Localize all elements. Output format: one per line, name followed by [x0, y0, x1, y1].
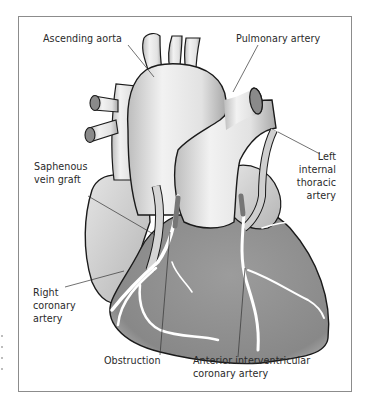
label-right-coronary-artery: Right coronary artery [33, 286, 76, 325]
obstruction-rca [175, 198, 178, 226]
label-obstruction: Obstruction [104, 354, 161, 367]
label-left-internal-thoracic-artery: Left internal thoracic artery [286, 150, 336, 202]
label-ascending-aorta: Ascending aorta [43, 32, 122, 45]
heart-illustration [0, 0, 369, 405]
label-saphenous-vein-graft: Saphenous vein graft [34, 160, 88, 186]
label-pulmonary-artery: Pulmonary artery [236, 32, 320, 45]
obstruction-lad [241, 196, 243, 214]
label-anterior-interventricular-coronary-artery: Anterior interventricular coronary arter… [193, 354, 310, 380]
